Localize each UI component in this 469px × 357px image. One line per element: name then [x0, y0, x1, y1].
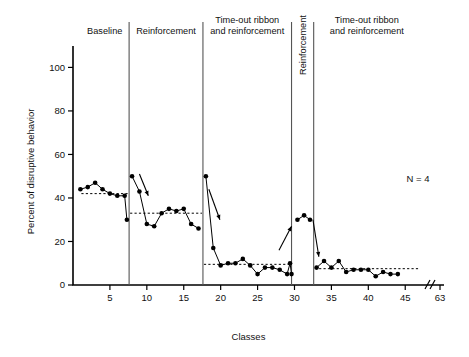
phase-label-timeout-2: Time-out ribbon: [335, 15, 399, 25]
data-point: [125, 217, 130, 222]
data-point: [388, 272, 393, 277]
arrow-timeout2-drop-head: [316, 252, 320, 257]
data-point: [181, 207, 186, 212]
y-axis-title: Percent of disruptive behavior: [25, 109, 36, 235]
data-point: [255, 272, 260, 277]
data-point: [241, 257, 246, 262]
y-tick-label-40: 40: [54, 192, 65, 203]
x-tick-label-30: 30: [289, 292, 300, 303]
data-point: [78, 187, 83, 192]
data-point: [288, 261, 293, 266]
data-point: [322, 259, 327, 264]
x-axis-title: Classes: [232, 331, 266, 342]
data-point: [373, 274, 378, 279]
x-tick-label-15: 15: [178, 292, 189, 303]
data-point: [336, 259, 341, 264]
data-point: [277, 267, 282, 272]
data-point: [174, 209, 179, 214]
phase-label-reinforcement-2: Reinforcement: [298, 15, 308, 75]
figure-root: 0204060801005101520253035404563ClassesPe…: [0, 0, 469, 357]
data-point: [152, 224, 157, 229]
data-point: [314, 265, 319, 270]
x-tick-label-10: 10: [142, 292, 153, 303]
phase-label-timeout-1: and reinforcement: [210, 26, 284, 36]
data-point: [344, 270, 349, 275]
y-tick-label-60: 60: [54, 149, 65, 160]
data-point: [329, 265, 334, 270]
phase-mean-lines: [81, 194, 419, 269]
phase-label-timeout-2: and reinforcement: [330, 26, 404, 36]
y-tick-label-0: 0: [60, 279, 65, 290]
series-segment: [206, 176, 292, 274]
x-tick-label-5: 5: [107, 292, 112, 303]
data-point: [85, 185, 90, 190]
data-point: [285, 272, 290, 277]
data-point: [396, 272, 401, 277]
annotation-arrows: [139, 174, 320, 257]
data-point: [302, 213, 307, 218]
y-tick-label-80: 80: [54, 105, 65, 116]
data-point: [137, 189, 142, 194]
series-segment: [132, 176, 198, 228]
data-point: [233, 261, 238, 266]
x-tick-label-20: 20: [215, 292, 226, 303]
sample-size-annotation: N = 4: [407, 173, 430, 184]
single-subject-line-chart: 0204060801005101520253035404563ClassesPe…: [0, 0, 469, 357]
data-point: [270, 265, 275, 270]
data-point: [359, 267, 364, 272]
phase-label-reinforcement-1: Reinforcement: [136, 26, 196, 36]
data-point: [145, 222, 150, 227]
phase-label-timeout-1: Time-out ribbon: [215, 15, 279, 25]
arrow-timeout-drop-head: [216, 215, 220, 220]
x-tick-label-35: 35: [326, 292, 337, 303]
data-point: [159, 211, 164, 216]
data-point: [130, 174, 135, 179]
data-point: [211, 246, 216, 251]
data-point: [108, 191, 113, 196]
x-tick-label-40: 40: [363, 292, 374, 303]
phase-dividers: Reinforcement: [129, 15, 314, 285]
x-tick-label-63: 63: [435, 292, 446, 303]
axes: [68, 46, 444, 290]
data-point: [196, 226, 201, 231]
data-point: [100, 187, 105, 192]
y-tick-label-20: 20: [54, 236, 65, 247]
y-tick-label-100: 100: [49, 62, 65, 73]
data-point: [351, 267, 356, 272]
data-series: [78, 174, 400, 279]
phase-label-baseline: Baseline: [87, 26, 122, 36]
data-point: [263, 265, 268, 270]
data-point: [115, 193, 120, 198]
data-point: [289, 272, 294, 277]
data-point: [218, 263, 223, 268]
data-point: [295, 217, 300, 222]
data-point: [189, 222, 194, 227]
x-tick-label-25: 25: [252, 292, 263, 303]
data-point: [366, 267, 371, 272]
data-point: [248, 263, 253, 268]
data-point: [226, 261, 231, 266]
data-point: [381, 270, 386, 275]
x-tick-label-45: 45: [400, 292, 411, 303]
data-point: [308, 217, 313, 222]
data-point: [167, 207, 172, 212]
data-point: [122, 193, 127, 198]
data-point: [93, 180, 98, 185]
data-point: [204, 174, 209, 179]
arrow-timeout-drop: [209, 189, 220, 219]
